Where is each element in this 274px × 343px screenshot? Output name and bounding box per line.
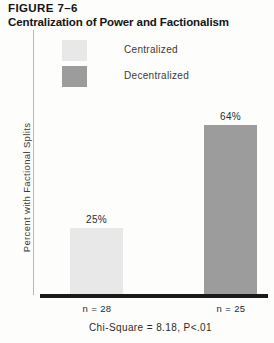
bar-decentralized: [204, 125, 257, 294]
figure-number: FIGURE 7–6: [8, 2, 270, 15]
bar-centralized: [70, 228, 123, 294]
legend-label-centralized: Centralized: [124, 44, 178, 55]
statistics-footnote: Chi-Square = 8.18, P<.01: [33, 322, 268, 333]
x-axis-baseline: [40, 294, 268, 298]
sample-size-centralized: n = 28: [62, 303, 132, 314]
figure-heading: FIGURE 7–6 Centralization of Power and F…: [8, 2, 270, 29]
legend-swatch-icon-centralized: [62, 40, 87, 61]
sample-size-decentralized: n = 25: [196, 303, 266, 314]
figure-title: Centralization of Power and Factionalism: [8, 15, 270, 29]
legend-label-decentralized: Decentralized: [124, 70, 189, 81]
figure-container: FIGURE 7–6 Centralization of Power and F…: [0, 0, 274, 343]
bar-value-label-centralized: 25%: [70, 214, 123, 225]
y-axis-line: [33, 30, 34, 295]
legend-swatch-icon-decentralized: [62, 66, 87, 87]
bar-value-label-decentralized: 64%: [204, 111, 257, 122]
y-axis-label: Percent with Factional Splits: [21, 98, 32, 278]
